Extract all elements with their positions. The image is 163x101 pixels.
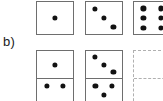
tile-top-1 bbox=[36, 1, 74, 35]
tile-top-3 bbox=[133, 1, 163, 35]
pip-bot-2-lower-1 bbox=[109, 83, 114, 88]
pip-bot-1-upper-0 bbox=[52, 62, 57, 67]
tile-bot-3-placeholder bbox=[133, 50, 163, 101]
pip-top-3-4 bbox=[141, 25, 146, 30]
pip-face-bot-1-upper bbox=[37, 51, 73, 78]
tile-top-2 bbox=[85, 1, 123, 35]
pip-top-2-0 bbox=[92, 6, 97, 11]
pip-bot-2-lower-2 bbox=[101, 92, 106, 97]
pip-face-bot-3-upper bbox=[134, 51, 163, 78]
pip-top-3-5 bbox=[158, 25, 163, 30]
pip-bot-2-upper-1 bbox=[101, 62, 106, 67]
pip-top-3-2 bbox=[141, 15, 146, 20]
pip-bot-1-lower-0 bbox=[44, 84, 49, 89]
pip-top-2-2 bbox=[111, 24, 116, 29]
pip-top-3-3 bbox=[158, 15, 163, 20]
pip-bot-2-upper-2 bbox=[111, 69, 116, 74]
pip-top-2-1 bbox=[101, 15, 106, 20]
pip-face-top-3 bbox=[134, 2, 163, 34]
pip-bot-1-lower-1 bbox=[61, 84, 66, 89]
pip-face-top-2 bbox=[86, 2, 122, 34]
tile-bot-2 bbox=[85, 50, 123, 101]
pip-top-3-1 bbox=[158, 6, 163, 11]
pip-top-3-0 bbox=[141, 6, 146, 11]
pip-face-top-1 bbox=[37, 2, 73, 34]
pip-face-bot-2-upper bbox=[86, 51, 122, 78]
part-label-b: b) bbox=[3, 35, 15, 48]
tile-bot-1 bbox=[36, 50, 74, 101]
domino-figure: b) bbox=[0, 0, 163, 101]
pip-bot-2-upper-0 bbox=[92, 54, 97, 59]
pip-face-bot-3-lower bbox=[134, 78, 163, 101]
pip-bot-2-lower-0 bbox=[93, 83, 98, 88]
pip-top-1-0 bbox=[52, 15, 57, 20]
pip-face-bot-2-lower bbox=[86, 78, 122, 101]
pip-face-bot-1-lower bbox=[37, 78, 73, 101]
